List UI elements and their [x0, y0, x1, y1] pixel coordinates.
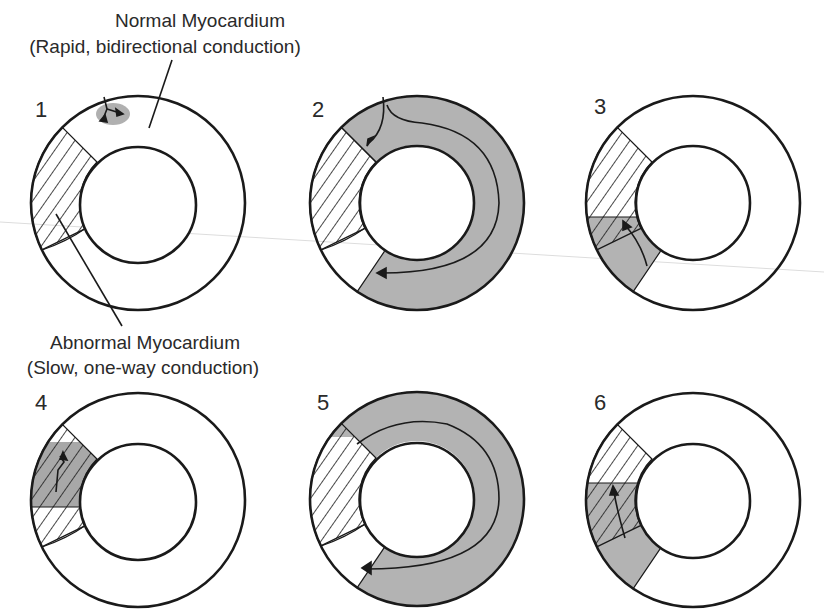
abnormal-myocardium-subtitle: (Slow, one-way conduction) [27, 357, 259, 378]
panel-number-2: 2 [312, 97, 324, 122]
panel-number-6: 6 [594, 390, 606, 415]
ring-panel-1 [31, 96, 245, 310]
ring-panel-5 [307, 392, 524, 606]
abnormal-myocardium-title: Abnormal Myocardium [50, 332, 240, 353]
panel-number-3: 3 [594, 94, 606, 119]
normal-pointer-line [149, 60, 172, 128]
ring-panel-4 [28, 393, 245, 607]
ring-panel-2 [310, 96, 524, 310]
panel-number-4: 4 [35, 390, 47, 415]
panel-number-1: 1 [35, 97, 47, 122]
ring-panel-3 [586, 96, 800, 310]
normal-myocardium-title: Normal Myocardium [115, 10, 285, 31]
inner-ring [80, 147, 196, 263]
normal-myocardium-subtitle: (Rapid, bidirectional conduction) [29, 36, 300, 57]
reentry-diagram: Normal Myocardium (Rapid, bidirectional … [0, 0, 824, 613]
ring-panel-6 [583, 393, 800, 607]
panel-number-5: 5 [317, 390, 329, 415]
